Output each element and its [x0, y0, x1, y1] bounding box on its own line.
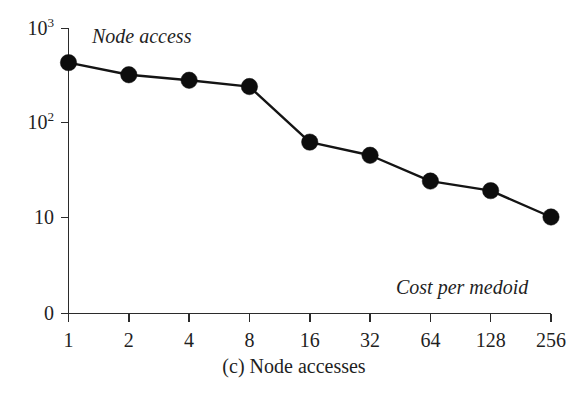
y-tick-label-1000: 103 [6, 18, 54, 38]
data-point [482, 182, 498, 198]
x-tick-label-64: 64 [420, 330, 440, 350]
chart-figure: 103 102 10 0 1 2 4 8 16 32 64 128 256 No… [0, 0, 588, 396]
data-point [181, 72, 197, 88]
x-tick-label-16: 16 [300, 330, 320, 350]
x-axis-ticks [69, 314, 552, 323]
y-tick-label-0: 0 [6, 303, 54, 323]
x-tick-label-4: 4 [184, 330, 194, 350]
data-point [543, 209, 559, 225]
data-point [241, 78, 257, 94]
y-axis-ticks [61, 29, 69, 314]
figure-caption: (c) Node accesses [0, 356, 588, 376]
x-tick-label-8: 8 [244, 330, 254, 350]
x-tick-label-256: 256 [536, 330, 566, 350]
y-tick-label-10: 10 [6, 207, 54, 227]
x-tick-label-32: 32 [360, 330, 380, 350]
y-axis-annotation: Node access [92, 26, 191, 46]
data-point [302, 134, 318, 150]
x-tick-label-128: 128 [476, 330, 506, 350]
series-markers [60, 54, 559, 225]
data-point [362, 147, 378, 163]
x-tick-label-2: 2 [124, 330, 134, 350]
x-tick-label-1: 1 [64, 330, 74, 350]
data-point [60, 54, 76, 70]
x-axis-annotation: Cost per medoid [396, 277, 528, 297]
y-tick-label-100: 102 [6, 112, 54, 132]
data-point [422, 173, 438, 189]
data-point [121, 67, 137, 83]
